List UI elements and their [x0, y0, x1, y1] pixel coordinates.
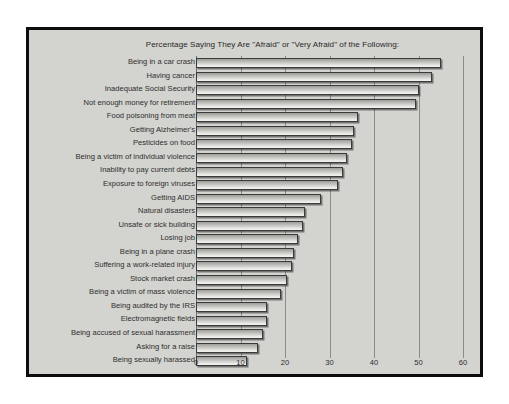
bar[interactable]: [196, 85, 419, 95]
bar-row[interactable]: Natural disasters: [29, 206, 480, 220]
bar-row[interactable]: Getting Alzheimer's: [29, 125, 480, 139]
bar[interactable]: [196, 329, 263, 339]
bar-row[interactable]: Being audited by the IRS: [29, 301, 480, 315]
bar[interactable]: [196, 139, 352, 149]
bar[interactable]: [196, 180, 338, 190]
bar[interactable]: [196, 221, 303, 231]
bar[interactable]: [196, 72, 432, 82]
bar-row[interactable]: Unsafe or sick building: [29, 220, 480, 234]
bar-row[interactable]: Electromagnetic fields: [29, 314, 480, 328]
bar-row[interactable]: Pesticides on food: [29, 138, 480, 152]
bar-row[interactable]: Getting AIDS: [29, 193, 480, 207]
x-tick-label-30: 30: [325, 358, 333, 367]
bar-row[interactable]: Food poisoning from meat: [29, 111, 480, 125]
bar-row[interactable]: Not enough money for retirement: [29, 98, 480, 112]
bar-category-label: Being accused of sexual harassment: [71, 328, 195, 338]
bar-category-label: Suffering a work-related injury: [94, 260, 195, 270]
bar[interactable]: [196, 248, 294, 258]
bar[interactable]: [196, 302, 267, 312]
bar-row[interactable]: Being a victim of individual violence: [29, 152, 480, 166]
plot-area: Being in a car crashHaving cancerInadequ…: [29, 56, 480, 356]
bar-category-label: Being audited by the IRS: [111, 301, 195, 311]
chart-frame: Percentage Saying They Are "Afraid" or "…: [26, 27, 483, 377]
x-axis: 0102030405060: [29, 358, 480, 374]
bar[interactable]: [196, 99, 416, 109]
bar-row[interactable]: Exposure to foreign viruses: [29, 179, 480, 193]
bar[interactable]: [196, 261, 292, 271]
bar-category-label: Inadequate Social Security: [105, 84, 195, 94]
bar-category-label: Getting Alzheimer's: [130, 125, 195, 135]
bar-category-label: Natural disasters: [138, 206, 195, 216]
bar-category-label: Exposure to foreign viruses: [103, 179, 195, 189]
x-tick-label-60: 60: [459, 358, 467, 367]
bar[interactable]: [196, 234, 298, 244]
bar-category-label: Having cancer: [146, 71, 195, 81]
bar-row[interactable]: Stock market crash: [29, 274, 480, 288]
x-tick-label-20: 20: [281, 358, 289, 367]
bar-category-label: Electromagnetic fields: [121, 314, 195, 324]
bar-category-label: Being a victim of individual violence: [76, 152, 195, 162]
bar-category-label: Being in a plane crash: [120, 247, 195, 257]
bar-category-label: Unsafe or sick building: [119, 220, 195, 230]
bar[interactable]: [196, 207, 305, 217]
bar[interactable]: [196, 126, 354, 136]
bar-category-label: Losing job: [160, 233, 195, 243]
bar-rows: Being in a car crashHaving cancerInadequ…: [29, 56, 480, 356]
bar[interactable]: [196, 167, 343, 177]
bar-category-label: Asking for a raise: [136, 342, 195, 352]
bar-row[interactable]: Suffering a work-related injury: [29, 260, 480, 274]
bar-category-label: Being a victim of mass violence: [89, 287, 195, 297]
bar-category-label: Being in a car crash: [128, 57, 195, 67]
bar-category-label: Pesticides on food: [133, 138, 195, 148]
chart-title: Percentage Saying They Are "Afraid" or "…: [29, 40, 480, 49]
bar[interactable]: [196, 153, 347, 163]
x-tick-label-40: 40: [370, 358, 378, 367]
bar[interactable]: [196, 275, 287, 285]
bar-row[interactable]: Asking for a raise: [29, 342, 480, 356]
bar[interactable]: [196, 194, 321, 204]
x-tick-label-10: 10: [236, 358, 244, 367]
bar[interactable]: [196, 316, 267, 326]
figure-root: Percentage Saying They Are "Afraid" or "…: [0, 0, 509, 404]
bar-row[interactable]: Having cancer: [29, 71, 480, 85]
bar-row[interactable]: Losing job: [29, 233, 480, 247]
bar-category-label: Food poisoning from meat: [107, 111, 195, 121]
bar[interactable]: [196, 58, 441, 68]
bar-row[interactable]: Being in a plane crash: [29, 247, 480, 261]
bar[interactable]: [196, 343, 258, 353]
bar-category-label: Getting AIDS: [151, 193, 195, 203]
bar-category-label: Inability to pay current debts: [100, 165, 195, 175]
x-tick-label-50: 50: [414, 358, 422, 367]
bar-row[interactable]: Inadequate Social Security: [29, 84, 480, 98]
bar-row[interactable]: Inability to pay current debts: [29, 165, 480, 179]
bar-category-label: Not enough money for retirement: [84, 98, 195, 108]
bar-row[interactable]: Being in a car crash: [29, 57, 480, 71]
bar[interactable]: [196, 289, 281, 299]
bar[interactable]: [196, 112, 358, 122]
bar-row[interactable]: Being accused of sexual harassment: [29, 328, 480, 342]
x-tick-label-0: 0: [194, 358, 198, 367]
bar-category-label: Stock market crash: [130, 274, 195, 284]
bar-row[interactable]: Being a victim of mass violence: [29, 287, 480, 301]
